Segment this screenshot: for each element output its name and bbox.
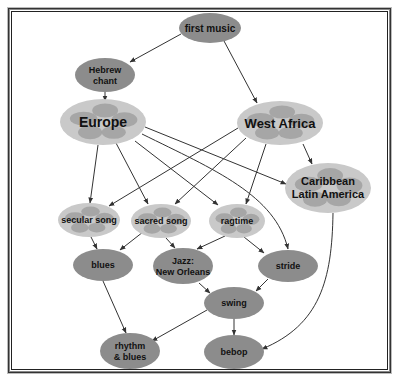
node-secular-song: secular song [58,203,120,237]
edge-blues-to-rhythm_blues [103,281,126,333]
node-rhythm-blues: rhythm& blues [100,333,160,369]
node-label: stride [276,261,301,271]
node-label: first music [185,23,236,34]
edge-stride-to-swing [256,279,268,291]
node-label: sacred song [134,216,187,226]
node-label: rhythm [115,341,146,351]
node-label: Caribbean [301,175,355,187]
node-label: bebop [221,347,248,357]
edge-ragtime-to-jazz_no [197,236,225,249]
edge-first_music-to-west_africa [224,41,257,103]
node-label: secular song [61,215,117,225]
node-label: New Orleans [156,267,211,277]
node-label: Europe [79,114,127,130]
node-west-africa: West Africa [237,101,323,145]
edge-secular_song-to-blues [91,237,97,249]
node-jazz-no: Jazz:New Orleans [153,248,213,284]
node-label: & blues [114,352,147,362]
node-ragtime: ragtime [209,204,265,238]
edge-west_africa-to-sacred_song [175,138,246,204]
node-stride: stride [258,250,318,282]
node-label: ragtime [221,216,254,226]
node-bebop: bebop [204,335,264,369]
node-label: West Africa [245,116,317,131]
node-label: Hebrew [89,65,123,75]
edge-swing-to-rhythm_blues [152,310,207,341]
edge-first_music-to-hebrew_chant [130,34,181,62]
node-sacred-song: sacred song [131,204,191,238]
node-label: swing [221,298,247,308]
node-label: blues [91,260,115,270]
edge-ragtime-to-stride [244,237,264,253]
edge-europe-to-secular_song [90,145,98,203]
node-label: Latin America [292,188,365,200]
edge-europe-to-sacred_song [116,143,148,204]
node-first-music: first music [179,13,241,43]
node-label: chant [93,76,117,86]
edge-sacred_song-to-blues [120,232,143,250]
node-blues: blues [73,249,133,281]
node-swing: swing [204,287,264,319]
edge-sacred_song-to-jazz_no [166,238,175,248]
edge-jazz_no-to-swing [199,283,210,293]
edge-west_africa-to-caribbean [303,144,312,164]
node-caribbean: CaribbeanLatin America [285,163,371,213]
node-hebrew-chant: Hebrewchant [75,58,135,92]
edge-west_africa-to-ragtime [246,144,266,204]
music-genealogy-diagram: first musicHebrewchantEuropeWest AfricaC… [0,0,398,380]
node-europe: Europe [60,99,146,145]
nodes-layer: first musicHebrewchantEuropeWest AfricaC… [58,13,371,369]
node-label: Jazz: [172,256,194,266]
